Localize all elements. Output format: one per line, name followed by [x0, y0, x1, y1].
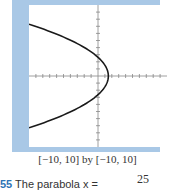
- graph-frame: [12, 0, 160, 152]
- fraction-numerator: 25: [137, 172, 149, 187]
- problem-number: 55: [0, 178, 12, 190]
- problem-text: The parabola x =: [15, 178, 98, 190]
- viewing-window-caption: [−10, 10] by [−10, 10]: [0, 153, 175, 165]
- problem-statement: 55 The parabola x =: [0, 178, 98, 190]
- parabola-graph: [29, 5, 167, 147]
- plot-area: [29, 5, 167, 147]
